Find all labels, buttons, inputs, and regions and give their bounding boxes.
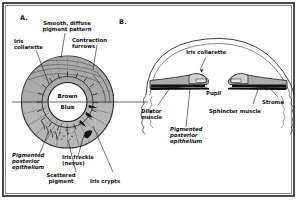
pigmented-posterior-epithelium-label-b: Pigmented posterior epithelium	[170, 126, 214, 145]
smooth-diffuse-pigment-pattern-label: Smooth, diffuse pigment pattern	[36, 20, 98, 32]
iris-leaf-right	[228, 74, 287, 91]
panel-a-iris-face	[12, 55, 148, 148]
posterior-epithelium-left	[150, 88, 209, 91]
sphincter-muscle-block-right	[231, 79, 241, 82]
blue-iris-half-label: Blue	[48, 104, 88, 110]
sphincter-muscle-label: Sphincter muscle	[209, 108, 269, 114]
brown-iris-half-label: Brown	[48, 93, 88, 99]
contraction-furrows-label: Contraction furrows	[72, 37, 116, 49]
iris-freckle-nevus-label: Iris freckle (nevus)	[62, 154, 102, 166]
iris-anatomy-figure: A. B. Smooth, diffuse pigment pattern Co…	[0, 0, 301, 203]
scattered-pigment-label: Scattered pigment	[40, 172, 82, 184]
iris-collarette-label-a: Iris collarette	[14, 38, 50, 50]
iris-leaf-left	[150, 74, 209, 91]
posterior-epithelium-right	[228, 88, 287, 91]
stroma-label: Stroma	[262, 99, 294, 105]
dilator-muscle-label: Dilator muscle	[141, 108, 171, 120]
panel-b-letter: B.	[119, 18, 127, 26]
pupil-label: Pupil	[206, 90, 228, 96]
dilator-muscle-band-left	[151, 85, 205, 88]
iris-collarette-label-b: Iris collarette	[186, 49, 238, 55]
pigmented-posterior-epithelium-label-a: Pigmented posterior epithelium	[12, 152, 56, 171]
sphincter-muscle-block-left	[196, 79, 206, 82]
iris-crypts-label: Iris crypts	[90, 178, 132, 184]
panel-a-letter: A.	[20, 14, 28, 22]
